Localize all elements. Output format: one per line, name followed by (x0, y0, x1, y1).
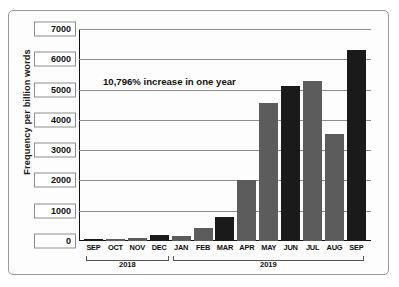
bar (237, 180, 256, 241)
x-axis-tick-label: SEP (84, 243, 103, 252)
y-axis-tick-label: 4000 (34, 112, 76, 127)
x-axis-tick-label: NOV (128, 243, 147, 252)
bar-slot (194, 29, 213, 241)
year-label: 2018 (86, 260, 169, 269)
bar (150, 235, 169, 241)
bar-slot (347, 29, 366, 241)
year-label: 2019 (173, 260, 364, 269)
y-axis-tick-label: 7000 (34, 22, 76, 37)
bar-slot (303, 29, 322, 241)
x-axis-tick-label: JUN (281, 243, 300, 252)
x-axis-tick-label: DEC (150, 243, 169, 252)
bar (194, 228, 213, 241)
y-axis-tick-label: 1000 (34, 203, 76, 218)
bar-series (79, 29, 371, 241)
x-axis-tick-label: AUG (325, 243, 344, 252)
plot-area: 70006000500040003000200010000 10,796% in… (79, 29, 371, 241)
x-axis-tick-label: JUL (303, 243, 322, 252)
bar-slot (150, 29, 169, 241)
x-axis-tick-label: JAN (172, 243, 191, 252)
bar (325, 134, 344, 241)
x-axis-tick-label: APR (237, 243, 256, 252)
year-group: 2019 (173, 256, 364, 272)
bar (281, 86, 300, 241)
x-axis-tick-labels: SEPOCTNOVDECJANFEBMARAPRMAYJUNJULAUGSEP (79, 243, 371, 252)
x-axis-tick-label: MAR (215, 243, 234, 252)
bar-slot (325, 29, 344, 241)
bar-slot (237, 29, 256, 241)
y-axis-tick-label: 3000 (34, 143, 76, 158)
year-group: 2018 (86, 256, 169, 272)
x-axis-tick-label: OCT (106, 243, 125, 252)
bar (172, 236, 191, 241)
bar (347, 50, 366, 241)
bar-slot (259, 29, 278, 241)
bar (84, 239, 103, 241)
y-axis-tick-label: 2000 (34, 173, 76, 188)
y-axis-title: Frequency per billion words (22, 32, 32, 192)
bar (215, 217, 234, 241)
bar (106, 239, 125, 241)
y-axis-tick-label: 6000 (34, 52, 76, 67)
bar-slot (106, 29, 125, 241)
x-axis-tick-label: MAY (259, 243, 278, 252)
bar-slot (281, 29, 300, 241)
bar-slot (172, 29, 191, 241)
bar (128, 238, 147, 241)
bar (303, 81, 322, 241)
y-axis-tick-label: 0 (34, 234, 76, 249)
chart-figure: Frequency per billion words 700060005000… (8, 10, 389, 275)
bar (259, 103, 278, 241)
bar-slot (84, 29, 103, 241)
y-axis-tick-label: 5000 (34, 82, 76, 97)
bar-slot (128, 29, 147, 241)
bar-slot (215, 29, 234, 241)
x-axis-tick-label: FEB (194, 243, 213, 252)
x-axis-tick-label: SEP (347, 243, 366, 252)
